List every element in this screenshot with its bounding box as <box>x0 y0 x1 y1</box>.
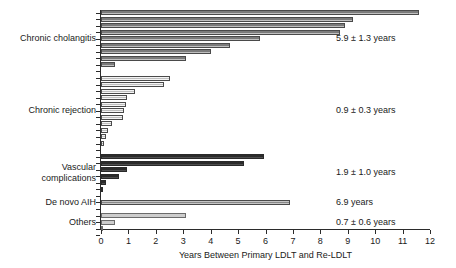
bar-row <box>101 62 430 67</box>
bar-row <box>101 161 430 166</box>
x-axis-tick-label: 10 <box>370 236 380 247</box>
y-axis-tick <box>96 202 100 203</box>
y-axis-tick <box>96 209 100 210</box>
y-axis-tick <box>96 189 100 190</box>
y-axis-tick <box>96 157 100 158</box>
y-axis-tick <box>96 222 100 223</box>
bar <box>101 180 106 185</box>
x-axis-tick-label: 8 <box>318 236 323 247</box>
x-axis-tick <box>293 230 294 234</box>
y-axis-tick <box>96 52 100 53</box>
bar <box>101 56 186 61</box>
bar <box>101 95 127 100</box>
y-axis-tick <box>96 137 100 138</box>
x-axis-tick-label: 4 <box>208 236 213 247</box>
y-axis-tick <box>96 216 100 217</box>
bar <box>101 213 186 218</box>
y-axis-tick <box>96 150 100 151</box>
y-axis-label-line: Vascular <box>41 162 96 173</box>
x-axis-tick <box>430 230 431 234</box>
bar <box>101 187 103 192</box>
bar <box>101 220 115 225</box>
bar <box>101 161 244 166</box>
x-axis-tick <box>183 230 184 234</box>
y-axis-label-line: De novo AIH <box>45 197 96 208</box>
y-axis-tick <box>96 163 100 164</box>
bar-row <box>101 49 430 54</box>
bar-row <box>101 76 430 81</box>
x-axis-tick-label: 12 <box>425 236 435 247</box>
x-axis-tick-label: 0 <box>98 236 103 247</box>
bar-row <box>101 121 430 126</box>
y-axis-tick <box>96 78 100 79</box>
annotation-de-novo-aih: 6.9 years <box>336 197 373 208</box>
x-axis-tick <box>320 230 321 234</box>
y-axis-tick <box>96 26 100 27</box>
y-axis-label-line: complications <box>41 173 96 184</box>
bar-row <box>101 134 430 139</box>
annotation-vascular-complications: 1.9 ± 1.0 years <box>336 167 395 178</box>
bar <box>101 167 127 172</box>
annotation-others: 0.7 ± 0.6 years <box>336 217 395 228</box>
bar <box>101 141 104 146</box>
x-axis-tick <box>403 230 404 234</box>
x-axis-tick <box>211 230 212 234</box>
bar-row <box>101 200 430 205</box>
bar-row <box>101 10 430 15</box>
bar-row <box>101 187 430 192</box>
bar <box>101 43 230 48</box>
y-axis-tick <box>96 65 100 66</box>
bar <box>101 128 108 133</box>
x-axis-tick <box>238 230 239 234</box>
y-axis-tick <box>96 58 100 59</box>
y-axis-tick <box>96 229 100 230</box>
x-axis-tick-label: 6 <box>263 236 268 247</box>
y-axis-label-line: Chronic cholangitis <box>20 33 96 44</box>
y-axis-tick <box>96 85 100 86</box>
y-axis-label-others: Others <box>69 217 96 228</box>
y-axis-tick <box>96 170 100 171</box>
x-axis-tick-label: 5 <box>236 236 241 247</box>
bar <box>101 121 112 126</box>
bar <box>101 49 211 54</box>
bar-row <box>101 95 430 100</box>
bar <box>101 10 419 15</box>
bar <box>101 115 123 120</box>
x-axis-tick-label: 7 <box>290 236 295 247</box>
bar-row <box>101 56 430 61</box>
bar <box>101 154 264 159</box>
x-axis-tick <box>348 230 349 234</box>
x-axis-tick <box>266 230 267 234</box>
bar <box>101 200 290 205</box>
bar-row <box>101 154 430 159</box>
bar-row <box>101 82 430 87</box>
y-axis-tick <box>96 32 100 33</box>
bar <box>101 108 124 113</box>
bar-row <box>101 141 430 146</box>
y-axis-tick <box>96 13 100 14</box>
y-axis-label-line: Chronic rejection <box>28 105 96 116</box>
bar <box>101 36 260 41</box>
y-axis-tick <box>96 19 100 20</box>
y-axis-label-chronic-rejection: Chronic rejection <box>28 105 96 116</box>
y-axis-tick <box>96 176 100 177</box>
x-axis-tick <box>156 230 157 234</box>
y-axis-label-line: Others <box>69 217 96 228</box>
y-axis-tick <box>96 196 100 197</box>
annotation-chronic-rejection: 0.9 ± 0.3 years <box>336 105 395 116</box>
y-axis-tick <box>96 183 100 184</box>
bar <box>101 82 164 87</box>
annotation-chronic-cholangitis: 5.9 ± 1.3 years <box>336 33 395 44</box>
bar-row <box>101 89 430 94</box>
x-axis-tick <box>101 230 102 234</box>
y-axis-tick <box>96 45 100 46</box>
x-axis-tick-label: 1 <box>126 236 131 247</box>
bar-row <box>101 17 430 22</box>
bar <box>101 102 126 107</box>
bar-chart-figure: Chronic cholangitisChronic rejectionVasc… <box>0 0 456 268</box>
bar <box>101 62 115 67</box>
bar-row <box>101 128 430 133</box>
bar-row <box>101 23 430 28</box>
y-axis-tick <box>96 39 100 40</box>
x-axis-tick <box>375 230 376 234</box>
